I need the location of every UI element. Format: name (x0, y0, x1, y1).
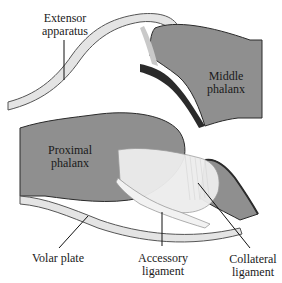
label-proximal-phalanx: Proximal phalanx (40, 144, 100, 170)
pip-joint-diagram: Extensor apparatus Middle phalanx Proxim… (0, 0, 282, 283)
label-volar-plate: Volar plate (28, 252, 88, 265)
label-collateral-ligament: Collateral ligament (220, 253, 282, 279)
label-extensor-apparatus: Extensor apparatus (30, 12, 100, 38)
label-accessory-ligament: Accessory ligament (128, 252, 198, 278)
collateral-ligament-shape (118, 148, 219, 212)
diagram-artwork (0, 0, 282, 283)
volar-plate-leader-line (59, 216, 88, 248)
label-middle-phalanx: Middle phalanx (196, 70, 256, 96)
